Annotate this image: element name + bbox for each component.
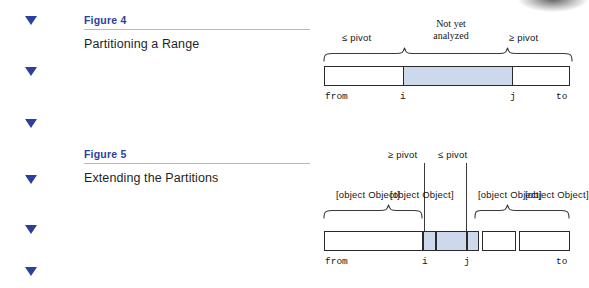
label-to: to bbox=[556, 91, 567, 102]
label-not-yet-line1: Not yet bbox=[416, 18, 486, 29]
leader-line-j bbox=[466, 163, 467, 239]
figure-4-title: Partitioning a Range bbox=[84, 37, 310, 52]
triangle-down-icon bbox=[25, 16, 37, 25]
figure-5-diagram: ≥ pivot ≤ pivot [object Object] [object … bbox=[316, 145, 580, 270]
triangle-down-icon bbox=[25, 225, 37, 234]
brace-row bbox=[322, 48, 574, 62]
triangle-down-icon bbox=[25, 67, 37, 76]
triangle-down-icon bbox=[25, 267, 37, 276]
triangle-down-icon bbox=[25, 119, 37, 128]
figure-5-title: Extending the Partitions bbox=[84, 171, 310, 186]
label-greater-equal-pivot: ≥ pivot bbox=[509, 32, 538, 43]
figure-4-caption-block: Figure 4 Partitioning a Range bbox=[84, 14, 310, 52]
brace-left-group bbox=[322, 205, 424, 219]
label-to: to bbox=[556, 256, 567, 267]
callout-greater-equal-pivot: ≥ pivot bbox=[388, 149, 417, 160]
triangle-down-icon bbox=[25, 175, 37, 184]
label-greater-equal-pivot-right: [object Object] bbox=[525, 189, 589, 200]
figure-4-diagram: ≤ pivot Not yet analyzed ≥ pivot from i … bbox=[316, 8, 580, 114]
label-i: i bbox=[422, 256, 428, 267]
callout-less-equal-pivot: ≤ pivot bbox=[438, 149, 467, 160]
segment-right-partition bbox=[519, 231, 570, 251]
label-j: j bbox=[510, 91, 516, 102]
figure-4-rule bbox=[84, 29, 310, 30]
label-not-yet-line2: analyzed bbox=[416, 30, 486, 41]
label-less-pivot: [object Object] bbox=[390, 189, 454, 200]
label-i: i bbox=[400, 91, 406, 102]
label-from: from bbox=[325, 256, 348, 267]
segment-cell-i bbox=[423, 231, 436, 251]
segment-left-partition bbox=[324, 231, 423, 251]
brace-right-group bbox=[473, 205, 571, 219]
segment-not-yet-analyzed bbox=[403, 66, 513, 86]
label-from: from bbox=[325, 91, 348, 102]
label-j: j bbox=[464, 256, 470, 267]
segment-right-small bbox=[482, 231, 516, 251]
segment-cell-j bbox=[467, 231, 479, 251]
segment-cell-middle bbox=[436, 231, 467, 251]
figure-5-heading: Figure 5 bbox=[84, 148, 310, 160]
figure-5-rule bbox=[84, 163, 310, 164]
leader-line-i bbox=[424, 163, 425, 239]
figure-4-heading: Figure 4 bbox=[84, 14, 310, 26]
figure-5-caption-block: Figure 5 Extending the Partitions bbox=[84, 148, 310, 186]
label-less-equal-pivot: ≤ pivot bbox=[342, 32, 371, 43]
